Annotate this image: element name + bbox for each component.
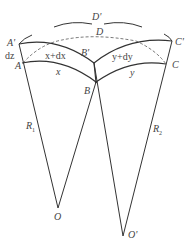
arc-d-prime-left bbox=[54, 23, 92, 27]
label-x: x bbox=[56, 67, 60, 77]
radius-r1-left bbox=[19, 44, 58, 208]
label-o-prime: O' bbox=[128, 230, 137, 240]
label-a: A bbox=[15, 61, 21, 71]
label-b-prime: B' bbox=[81, 48, 89, 58]
label-r2: R2 bbox=[153, 124, 162, 136]
point-b-marker bbox=[95, 81, 97, 83]
label-c-prime: C' bbox=[175, 37, 184, 47]
label-y-plus-dy: y+dy bbox=[112, 52, 133, 62]
radius-r2-left bbox=[94, 63, 123, 236]
label-x-plus-dx: x+dx bbox=[45, 51, 66, 61]
arc-d-prime-right bbox=[104, 23, 142, 27]
label-y: y bbox=[130, 68, 134, 78]
label-c: C bbox=[172, 60, 179, 70]
radius-r1-right bbox=[58, 82, 96, 208]
label-r1: R1 bbox=[26, 121, 35, 133]
label-a-prime: A' bbox=[7, 38, 15, 48]
arc-b-prime-c-prime bbox=[94, 40, 172, 63]
label-o: O bbox=[54, 212, 61, 222]
label-r2-sub: 2 bbox=[159, 130, 162, 136]
label-d-prime: D' bbox=[92, 12, 101, 22]
label-d: D bbox=[96, 27, 103, 37]
label-dz: dz bbox=[5, 51, 14, 61]
label-r1-sub: 1 bbox=[32, 127, 35, 133]
label-b: B bbox=[84, 86, 90, 96]
